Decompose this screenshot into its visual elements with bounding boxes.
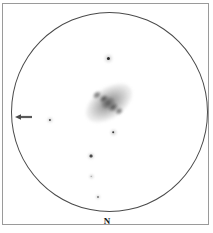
star-star-chain-lower <box>96 195 101 200</box>
star-star-west <box>47 117 53 123</box>
star-core <box>90 175 92 177</box>
north-direction-label: N <box>104 217 111 226</box>
star-star-chain-upper <box>88 153 95 160</box>
star-star-north <box>104 54 113 63</box>
star-star-south-galaxy <box>110 129 117 136</box>
star-core <box>97 196 99 198</box>
star-core <box>112 131 115 134</box>
eyepiece-sketch-container: N <box>0 0 213 233</box>
arrow-svg <box>15 113 33 121</box>
sky-field <box>0 0 213 233</box>
star-star-chain-middle <box>89 174 94 179</box>
left-pointing-arrow-icon <box>15 107 33 125</box>
